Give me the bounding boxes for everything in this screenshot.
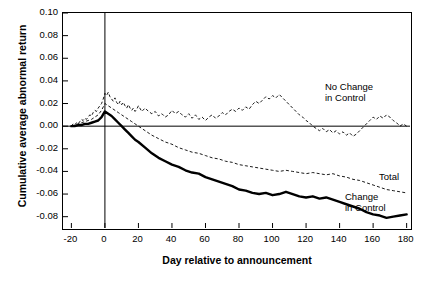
x-tick-label: 40: [154, 234, 188, 244]
x-tick-label: 0: [87, 234, 121, 244]
total-label: Total: [379, 171, 399, 182]
x-axis-title: Day relative to announcement: [62, 254, 412, 266]
x-tick-label: -20: [53, 234, 87, 244]
x-tick-label: 120: [288, 234, 322, 244]
x-tick-label: 180: [389, 234, 423, 244]
x-tick-label: 20: [120, 234, 154, 244]
x-tick-label: 160: [355, 234, 389, 244]
x-axis-tick-labels: -20020406080100120140160180: [0, 234, 444, 248]
x-tick-label: 80: [221, 234, 255, 244]
chart-container: No Change in Control Total Change in Con…: [0, 0, 444, 289]
x-tick-label: 100: [255, 234, 289, 244]
plot-area: No Change in Control Total Change in Con…: [62, 12, 412, 230]
x-tick-label: 140: [322, 234, 356, 244]
no-change-in-control-label: No Change in Control: [325, 81, 373, 103]
x-tick-label: 60: [187, 234, 221, 244]
series-total: [71, 104, 406, 193]
y-axis-title: Cumulative average abnormal return: [16, 6, 28, 226]
change-in-control-label: Change in Control: [345, 191, 386, 213]
